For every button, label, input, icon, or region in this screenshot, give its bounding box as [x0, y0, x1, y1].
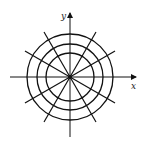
x-axis-label: x [131, 81, 136, 91]
polar-grid-diagram: x y [0, 0, 144, 145]
origin-dot [68, 75, 72, 79]
y-axis-label: y [60, 11, 67, 21]
